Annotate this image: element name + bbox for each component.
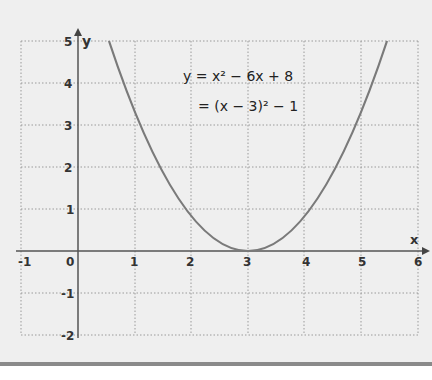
- x-tick-label: 1: [130, 255, 138, 269]
- y-axis-arrow-icon: [74, 28, 82, 36]
- y-tick-label: 3: [64, 119, 72, 133]
- x-tick-label: -1: [18, 255, 31, 269]
- y-tick-label: -2: [61, 329, 74, 343]
- y-axis-label: y: [82, 33, 91, 49]
- x-tick-label: 6: [414, 255, 422, 269]
- y-tick-label: 2: [64, 161, 72, 175]
- grid: [21, 41, 418, 335]
- quadratic-chart: y x -1 0 1 2 3 4 5 6 5 4 3 2 1 -1 -2 y =…: [0, 0, 432, 380]
- equation-vertex-form: = (x − 3)² − 1: [198, 98, 298, 114]
- x-axis-arrow-icon: [422, 247, 430, 255]
- x-tick-label: 0: [66, 255, 74, 269]
- equation-expanded: y = x² − 6x + 8: [183, 68, 293, 84]
- x-tick-label: 4: [302, 255, 310, 269]
- y-tick-label: -1: [61, 287, 74, 301]
- x-axis-label: x: [410, 232, 419, 247]
- x-tick-label: 3: [243, 255, 251, 269]
- x-tick-label: 5: [358, 255, 366, 269]
- y-tick-label: 1: [66, 203, 74, 217]
- x-tick-label: 2: [186, 255, 194, 269]
- y-tick-label: 5: [64, 35, 72, 49]
- y-tick-label: 4: [64, 77, 72, 91]
